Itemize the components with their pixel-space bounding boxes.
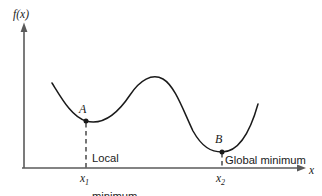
tick-label-x2-subscript: 2	[221, 178, 225, 187]
y-axis-label: f(x)	[13, 8, 29, 20]
graph-canvas	[0, 0, 322, 196]
annotation-global-minimum: Global minimum	[225, 154, 306, 166]
x-axis-label: x	[309, 164, 314, 176]
vertical-axis-arrowhead	[21, 23, 28, 33]
tick-label-x1: x1	[80, 172, 89, 188]
annotation-local-minimum: Local minimum	[92, 126, 137, 196]
point-marker-b	[220, 150, 225, 155]
function-graph-figure: f(x) x A B Local minimum Global minimum …	[0, 0, 322, 196]
point-label-b: B	[215, 133, 222, 146]
annotation-local-minimum-line2: minimum	[92, 190, 137, 196]
point-label-a: A	[79, 103, 86, 116]
point-marker-a	[84, 119, 89, 124]
vertical-axis	[21, 23, 28, 169]
tick-label-x2: x2	[216, 172, 225, 188]
tick-label-x1-subscript: 1	[85, 178, 89, 187]
annotation-local-minimum-line1: Local	[92, 152, 137, 165]
